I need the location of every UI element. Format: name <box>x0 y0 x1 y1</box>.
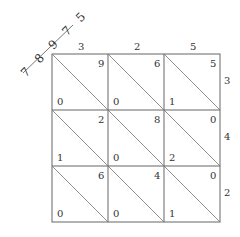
cell-2-2-tens: 1 <box>169 209 175 219</box>
cell-0-2-tens: 1 <box>169 97 175 107</box>
cell-1-0-tens: 1 <box>57 153 63 163</box>
cell-1-2-tens: 2 <box>169 153 175 163</box>
cell-2-1-tens: 0 <box>113 209 119 219</box>
cell-0-1-units: 6 <box>154 59 160 69</box>
cell-2-1-units: 4 <box>154 171 160 181</box>
cell-2-0-tens: 0 <box>57 209 63 219</box>
lattice-grid <box>0 0 240 237</box>
cell-0-2-units: 5 <box>210 59 216 69</box>
cell-1-1-units: 8 <box>154 115 160 125</box>
multiplier-digit-3: 2 <box>224 188 230 198</box>
multiplicand-digit-1: 3 <box>78 42 84 52</box>
cell-0-1-tens: 0 <box>113 97 119 107</box>
multiplier-digit-2: 4 <box>224 132 230 142</box>
cell-1-0-units: 2 <box>98 115 104 125</box>
multiplicand-digit-2: 2 <box>134 42 140 52</box>
cell-0-0-units: 9 <box>98 59 104 69</box>
cell-2-2-units: 0 <box>210 171 216 181</box>
cell-1-1-tens: 0 <box>113 153 119 163</box>
cell-1-2-units: 0 <box>210 115 216 125</box>
multiplicand-digit-3: 5 <box>190 42 196 52</box>
cell-2-0-units: 6 <box>98 171 104 181</box>
cell-0-0-tens: 0 <box>57 97 63 107</box>
multiplier-digit-1: 3 <box>224 76 230 86</box>
cell-diagonals <box>52 54 220 222</box>
